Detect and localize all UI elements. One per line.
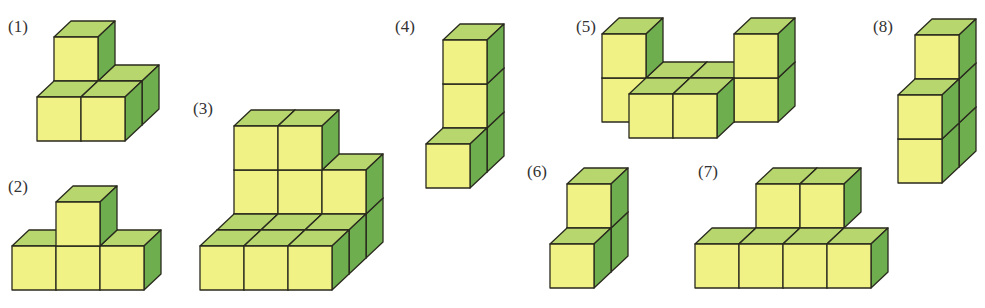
cube	[278, 110, 339, 170]
cube	[800, 168, 861, 228]
cube	[602, 18, 663, 78]
cube	[550, 228, 611, 288]
figure-canvas	[0, 0, 985, 308]
cube	[827, 228, 888, 288]
cube	[898, 79, 959, 139]
cube-figure-7	[695, 168, 888, 288]
figure-label-4: (4)	[395, 17, 415, 37]
cube-figure-2	[12, 186, 161, 290]
cube-figure-1	[37, 21, 159, 141]
cube	[673, 78, 734, 138]
cube	[426, 128, 487, 188]
cube	[915, 19, 976, 79]
figure-label-1: (1)	[8, 17, 28, 37]
cube-figure-3	[200, 110, 383, 290]
cube	[81, 81, 142, 141]
cube	[288, 230, 349, 290]
figure-label-5: (5)	[576, 17, 596, 37]
cube	[567, 168, 628, 228]
cube	[443, 24, 504, 84]
cube-figure-4	[426, 24, 504, 188]
cube	[56, 186, 117, 246]
cube	[322, 154, 383, 214]
figure-label-2: (2)	[8, 177, 28, 197]
cube-figure-5	[602, 18, 795, 138]
cube	[100, 230, 161, 290]
cube	[54, 21, 115, 81]
figure-label-8: (8)	[873, 17, 893, 37]
figure-label-7: (7)	[698, 162, 718, 182]
figure-label-6: (6)	[527, 162, 547, 182]
cube	[734, 18, 795, 78]
figure-label-3: (3)	[193, 99, 213, 119]
cube-figure-6	[550, 168, 628, 288]
cube-figure-8	[898, 19, 976, 183]
